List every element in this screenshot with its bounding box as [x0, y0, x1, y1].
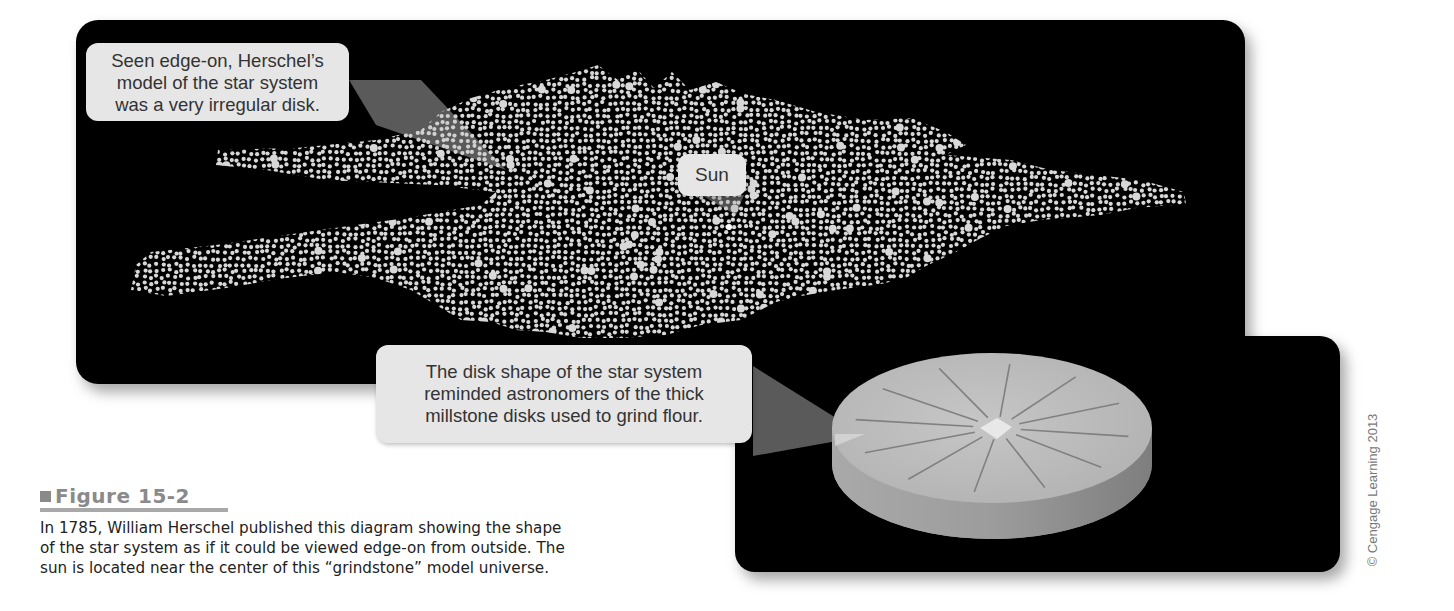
sun-label-text: Sun — [695, 164, 729, 187]
caption-line: sun is located near the center of this “… — [40, 558, 740, 578]
copyright-credit: © Cengage Learning 2013 — [1365, 414, 1380, 567]
sun-label: Sun — [678, 154, 746, 196]
callout-line: model of the star system — [111, 72, 324, 94]
callout-line: The disk shape of the star system — [424, 361, 704, 383]
callout-line: was a very irregular disk. — [111, 94, 324, 116]
caption-line: of the star system as if it could be vie… — [40, 538, 740, 558]
herschel-model-callout: Seen edge-on, Herschel’s model of the st… — [86, 43, 349, 121]
star-system-panel: Seen edge-on, Herschel’s model of the st… — [76, 20, 1245, 384]
caption-line: In 1785, William Herschel published this… — [40, 518, 740, 538]
square-bullet-icon — [40, 491, 51, 502]
millstone-callout: The disk shape of the star system remind… — [376, 345, 752, 443]
millstone-panel — [735, 336, 1340, 572]
millstone-illustration — [735, 336, 1340, 572]
figure-label-underline — [40, 508, 228, 512]
callout-line: Seen edge-on, Herschel’s — [111, 50, 324, 72]
sun-marker — [726, 224, 732, 230]
callout-pointer — [349, 80, 506, 170]
figure-label-text: Figure 15-2 — [55, 484, 190, 508]
figure-caption: In 1785, William Herschel published this… — [40, 518, 740, 578]
figure-label: Figure 15-2 — [40, 484, 190, 508]
callout-line: reminded astronomers of the thick — [424, 383, 704, 405]
callout-line: millstone disks used to grind flour. — [424, 405, 704, 427]
